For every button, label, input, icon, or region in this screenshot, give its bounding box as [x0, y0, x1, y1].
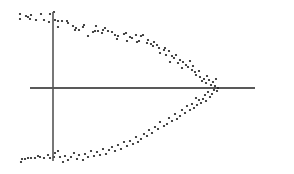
data-point — [108, 149, 110, 151]
data-point — [205, 82, 207, 84]
data-point — [156, 44, 158, 46]
data-point — [27, 16, 29, 18]
data-point — [95, 25, 97, 27]
data-point — [84, 153, 86, 155]
data-point — [195, 97, 197, 99]
data-point — [202, 98, 204, 100]
data-point — [102, 29, 104, 31]
data-point — [177, 62, 179, 64]
data-point — [153, 41, 155, 43]
data-point — [49, 13, 51, 15]
data-point — [74, 29, 76, 31]
data-point — [136, 41, 138, 43]
data-point — [101, 32, 103, 34]
data-point — [117, 144, 119, 146]
data-point — [147, 39, 149, 41]
data-point — [25, 15, 27, 17]
data-point — [99, 154, 101, 156]
data-point — [200, 102, 202, 104]
data-point — [73, 152, 75, 154]
data-point — [194, 71, 196, 73]
data-point — [117, 35, 119, 37]
data-point — [132, 143, 134, 145]
data-point — [90, 150, 92, 152]
data-point — [204, 94, 206, 96]
data-point — [129, 36, 131, 38]
data-point — [93, 155, 95, 157]
data-point — [213, 89, 215, 91]
data-point — [203, 78, 205, 80]
data-point — [54, 152, 56, 154]
data-point — [142, 34, 144, 36]
data-point — [216, 90, 218, 92]
data-point — [192, 65, 194, 67]
data-point — [30, 14, 32, 16]
data-point — [159, 121, 161, 123]
data-point — [140, 35, 142, 37]
data-point — [61, 20, 63, 22]
data-point — [123, 141, 125, 143]
data-point — [129, 140, 131, 142]
data-point — [199, 76, 201, 78]
data-point — [214, 85, 216, 87]
data-point — [137, 141, 139, 143]
data-point — [186, 105, 188, 107]
data-point — [94, 30, 96, 32]
data-point — [154, 126, 156, 128]
data-point — [48, 21, 50, 23]
data-point — [104, 27, 106, 29]
data-point — [185, 64, 187, 66]
data-point — [83, 24, 85, 26]
data-point — [54, 19, 56, 21]
data-point — [126, 145, 128, 147]
data-point — [174, 113, 176, 115]
data-point — [207, 91, 209, 93]
data-point — [171, 55, 173, 57]
data-point — [195, 74, 197, 76]
data-point — [72, 25, 74, 27]
data-point — [43, 19, 45, 21]
data-point — [169, 61, 171, 63]
data-point — [105, 153, 107, 155]
data-point — [116, 38, 118, 40]
data-point — [37, 155, 39, 157]
data-point — [210, 84, 212, 86]
data-point — [211, 93, 213, 95]
data-point — [82, 26, 84, 28]
data-point — [191, 103, 193, 105]
data-point — [126, 40, 128, 42]
data-point — [158, 47, 160, 49]
data-point — [35, 19, 37, 21]
data-point — [87, 35, 89, 37]
data-point — [59, 156, 61, 158]
data-point — [163, 49, 165, 51]
data-point — [78, 154, 80, 156]
data-point — [107, 30, 109, 32]
data-point — [173, 57, 175, 59]
data-point — [206, 75, 208, 77]
data-point — [179, 115, 181, 117]
data-point — [196, 104, 198, 106]
data-point — [138, 40, 140, 42]
data-point — [198, 70, 200, 72]
data-point — [43, 157, 45, 159]
data-point — [76, 158, 78, 160]
data-point — [212, 81, 214, 83]
data-point — [146, 42, 148, 44]
data-point — [114, 150, 116, 152]
data-point — [198, 99, 200, 101]
data-point — [168, 50, 170, 52]
data-point — [166, 123, 168, 125]
data-point — [34, 157, 36, 159]
data-point — [168, 117, 170, 119]
data-point — [150, 43, 152, 45]
data-point — [57, 20, 59, 22]
data-point — [114, 34, 116, 36]
data-point — [57, 26, 59, 28]
plot-background — [0, 0, 294, 174]
data-point — [40, 13, 42, 15]
data-point — [179, 59, 181, 61]
data-point — [165, 54, 167, 56]
data-point — [27, 157, 29, 159]
data-point — [176, 118, 178, 120]
